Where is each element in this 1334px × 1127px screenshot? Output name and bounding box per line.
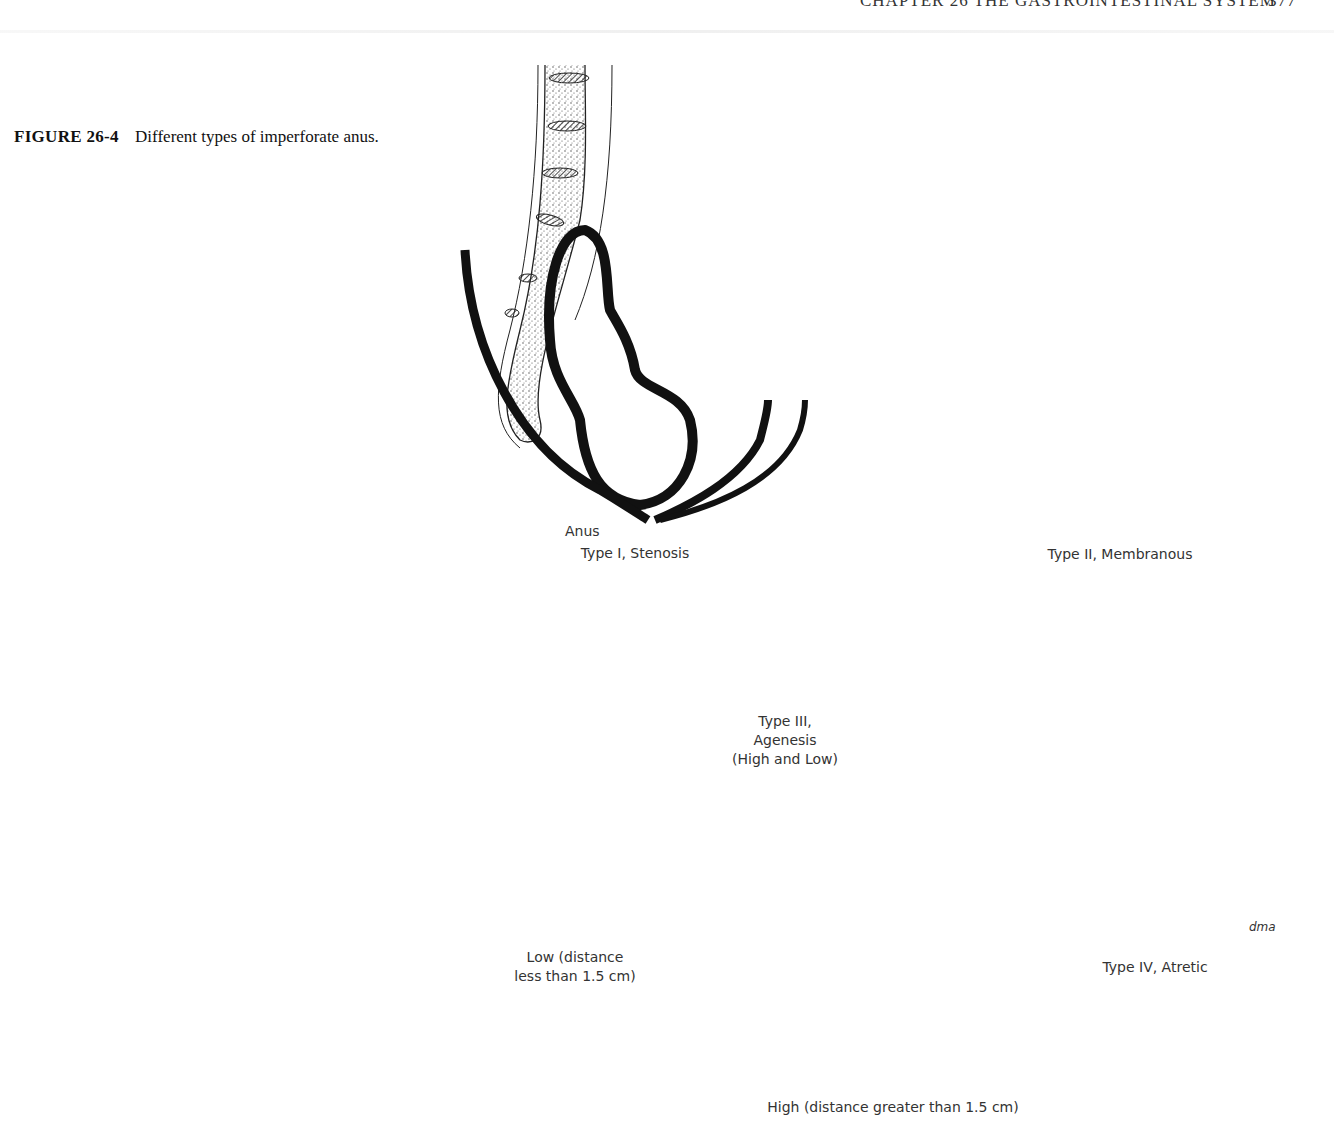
label-low-line2: less than 1.5 cm) [495,967,655,986]
label-type1: Type I, Stenosis [565,544,705,563]
label-type3-line3: (High and Low) [730,750,840,769]
artist-signature: dma [1249,918,1276,937]
label-type4: Type IV, Atretic [1085,958,1225,977]
label-type3-line2: Agenesis [730,731,840,750]
label-type3-low: Low (distance less than 1.5 cm) [495,948,655,986]
label-type3: Type III, Agenesis (High and Low) [730,712,840,769]
panel-type1-stenosis [465,65,805,520]
label-type3-line1: Type III, [730,712,840,731]
label-type2: Type II, Membranous [1030,545,1210,564]
anus-label: Anus [565,522,600,541]
label-type3-high: High (distance greater than 1.5 cm) [758,1098,1028,1117]
label-low-line1: Low (distance [495,948,655,967]
